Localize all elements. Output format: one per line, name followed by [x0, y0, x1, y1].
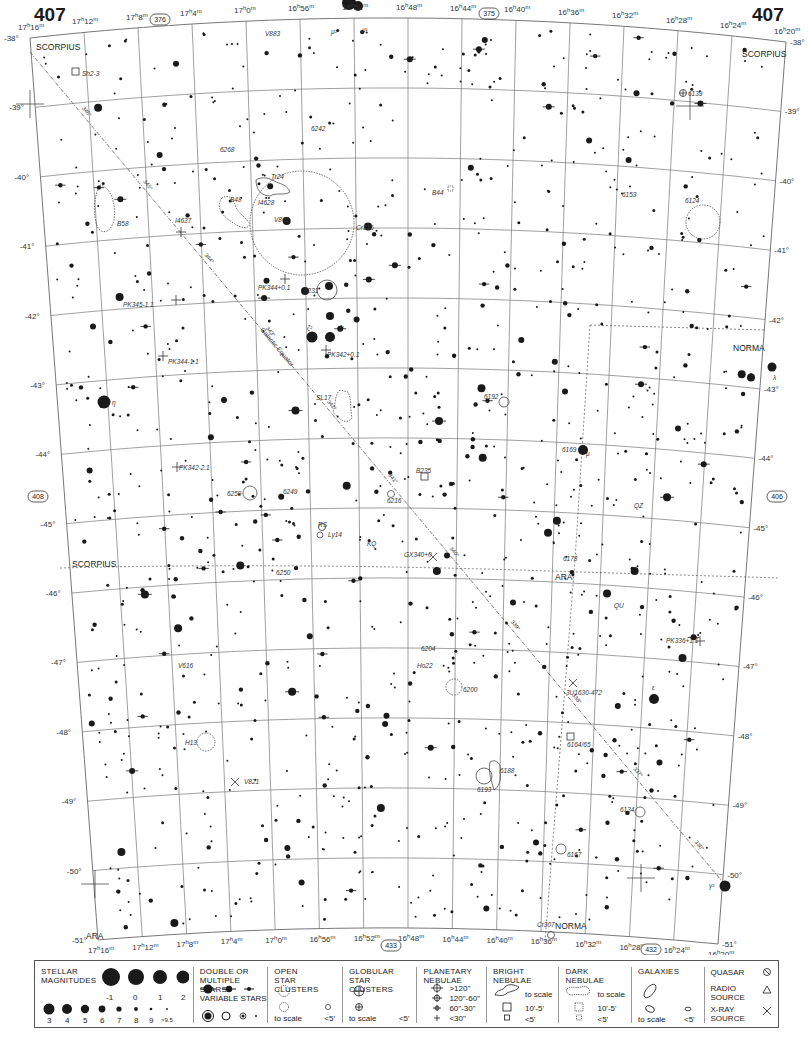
object-label: 6192	[484, 393, 499, 400]
ra-label-bottom: 17h4m	[221, 936, 243, 946]
open-cluster-cr316	[250, 171, 354, 275]
open-cluster-ly14	[317, 532, 323, 538]
legend-xray-label: X-RAY SOURCE	[711, 1005, 745, 1023]
xray-source-icon	[763, 1007, 771, 1015]
object-label: B44	[432, 189, 444, 196]
object-label: 6268	[220, 146, 235, 153]
open-cluster-icon	[272, 985, 342, 1015]
ra-label-top: 16h24m	[720, 20, 746, 30]
ra-label-bottom: 16h24m	[664, 945, 690, 955]
galactic-equator-label: Galactic Equator	[258, 326, 296, 369]
ra-label-top: 16h36m	[558, 7, 584, 17]
bright-star	[325, 282, 333, 290]
object-label: 6250	[276, 569, 291, 576]
object-label: B58	[117, 220, 129, 227]
svg-text:433: 433	[385, 942, 397, 949]
star-field	[43, 0, 776, 929]
svg-text:432: 432	[645, 946, 657, 953]
dec-label-left: -49°	[62, 797, 77, 806]
constellation-label: ARA	[86, 931, 104, 941]
dark-nebula-b58	[94, 185, 114, 232]
ra-label-bottom: 17h8m	[177, 939, 199, 949]
dec-label-right: -47°	[743, 662, 758, 671]
coordinate-grid	[30, 18, 786, 944]
dec-label-left: -40°	[14, 173, 29, 182]
object-label: KQ	[367, 540, 376, 548]
ra-label-bottom: 16h36m	[531, 936, 557, 946]
dec-label-right: -44°	[759, 454, 774, 463]
dec-label-right: -40°	[780, 177, 795, 186]
ra-label-top: 17h0m	[234, 5, 256, 15]
open-cluster-ngc6259	[243, 486, 257, 500]
legend-sources: QUASAR RADIO SOURCE X-RAY SOURCE	[705, 967, 779, 1023]
object-label: V821	[244, 778, 260, 785]
bright-star	[307, 332, 318, 343]
svg-text:375: 375	[483, 10, 495, 17]
object-label: PK342+0.1	[327, 351, 360, 358]
object-label: ε	[652, 684, 655, 691]
dec-label-right: -41°	[774, 246, 789, 255]
object-label: 6124	[685, 197, 700, 204]
dec-label-left: -39°	[9, 103, 24, 112]
source-icons	[761, 967, 775, 1023]
constellation-label: NORMA	[555, 921, 587, 931]
galactic-longitude-tick: 345°	[142, 179, 154, 192]
dec-label-left: -44°	[35, 450, 50, 459]
legend-planetary-nebulae: PLANETARY NEBULAE >120" 120"-60" 60"-30"…	[417, 967, 487, 1023]
object-label: λ	[772, 374, 776, 381]
galactic-longitude-tick: 339°	[510, 619, 522, 632]
bright-star	[98, 396, 111, 409]
ra-label-top: 16h20m	[774, 26, 800, 36]
object-label: γ²	[709, 882, 715, 890]
dec-label-left: -51°	[72, 936, 87, 945]
ra-label-top: 16h40m	[504, 4, 530, 14]
open-cluster-h13	[197, 733, 215, 751]
ra-label-bottom: 16h52m	[354, 933, 380, 943]
object-label: Hо22	[417, 662, 433, 669]
planetary-nebula-icon	[429, 983, 449, 1023]
dec-label-right: -48°	[738, 732, 753, 741]
object-label: 6134	[620, 806, 635, 813]
legend-globular-clusters: GLOBULAR STAR CLUSTERS to scale <5'	[343, 967, 418, 1023]
double-star-icon	[198, 984, 268, 1024]
dec-label-left: -50°	[67, 867, 82, 876]
legend-dark-nebulae: DARK NEBULAE to scale 10'-5' <5'	[559, 967, 632, 1023]
ra-label-top: 16h52m	[342, 2, 368, 12]
bright-nebula-ngc6164	[567, 733, 574, 740]
bright-star	[720, 881, 731, 892]
object-label: 6169	[562, 446, 577, 453]
object-label: η	[112, 399, 116, 407]
dark-nebula-b44	[448, 186, 453, 191]
object-label: 6216	[387, 497, 402, 504]
legend-double-variable-stars: DOUBLE OR MULTIPLE STARS VARIABLE STARS	[194, 967, 269, 1023]
ra-label-top: 16h32m	[612, 10, 638, 20]
constellation-label: SCORPIUS	[742, 49, 787, 59]
object-label: 6231	[304, 287, 319, 294]
object-label: B235	[416, 467, 432, 474]
object-label: μ	[585, 450, 590, 458]
ra-label-top: 16h48m	[396, 2, 422, 12]
dec-label-left: -43°	[30, 381, 45, 390]
page-number-right: 407	[752, 4, 784, 26]
ra-label-bottom: 17h16m	[88, 945, 114, 955]
object-label: μ¹	[361, 26, 369, 34]
galactic-equator: 346°345°344°343°342°341°340°339°338°337°…	[30, 52, 726, 886]
dark-nebula-icon	[565, 983, 595, 1023]
object-label: PK344-1.1	[168, 358, 199, 365]
constellation-label: SCORPIUS	[36, 42, 81, 52]
ra-label-bottom: 17h0m	[265, 935, 287, 945]
constellation-label: NORMA	[733, 343, 765, 353]
dec-label-right: -43°	[764, 385, 779, 394]
ra-label-bottom: 16h32m	[575, 939, 601, 949]
object-label: 6193	[477, 786, 492, 793]
object-label: 3U1630-472	[566, 689, 602, 696]
object-label: 6167	[567, 851, 582, 858]
object-label: PK345-1.1	[123, 301, 154, 308]
object-label: 6249	[283, 488, 298, 495]
dec-label-right: -50°	[727, 871, 742, 880]
bright-star	[325, 332, 335, 342]
object-label: 6164/65	[567, 741, 591, 748]
constellation-label: SCORPIUS	[72, 559, 117, 569]
object-label: Cr307	[537, 921, 555, 928]
object-label: 6153	[622, 191, 637, 198]
